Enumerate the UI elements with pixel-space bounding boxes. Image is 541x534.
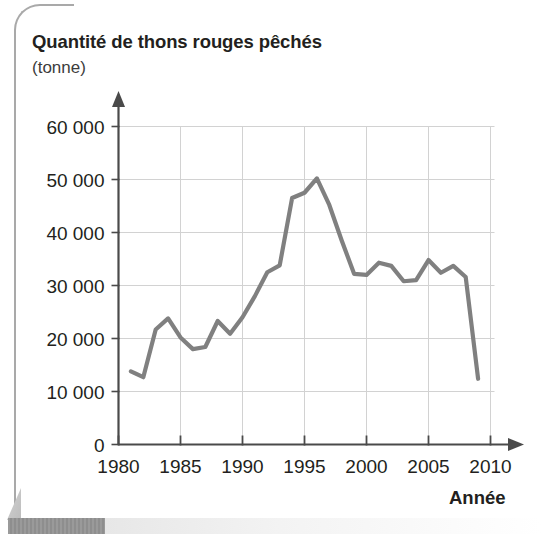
svg-text:50 000: 50 000 xyxy=(46,170,104,191)
svg-text:30 000: 30 000 xyxy=(46,276,104,297)
x-axis-tick-labels: 1980198519901995200020052010 xyxy=(97,456,511,477)
svg-text:40 000: 40 000 xyxy=(46,223,104,244)
svg-text:10 000: 10 000 xyxy=(46,382,104,403)
svg-text:0: 0 xyxy=(94,435,105,456)
svg-text:1985: 1985 xyxy=(159,456,201,477)
svg-text:60 000: 60 000 xyxy=(46,117,104,138)
svg-text:2010: 2010 xyxy=(469,456,511,477)
line-chart-plot: 010 00020 00030 00040 00050 00060 000 19… xyxy=(0,0,541,534)
svg-text:1990: 1990 xyxy=(221,456,263,477)
gridlines xyxy=(119,127,495,445)
svg-text:1980: 1980 xyxy=(97,456,139,477)
svg-text:2005: 2005 xyxy=(407,456,449,477)
svg-text:1995: 1995 xyxy=(283,456,325,477)
y-axis-tick-labels: 010 00020 00030 00040 00050 00060 000 xyxy=(46,117,104,456)
svg-text:20 000: 20 000 xyxy=(46,329,104,350)
axes xyxy=(112,91,524,451)
svg-text:2000: 2000 xyxy=(345,456,387,477)
